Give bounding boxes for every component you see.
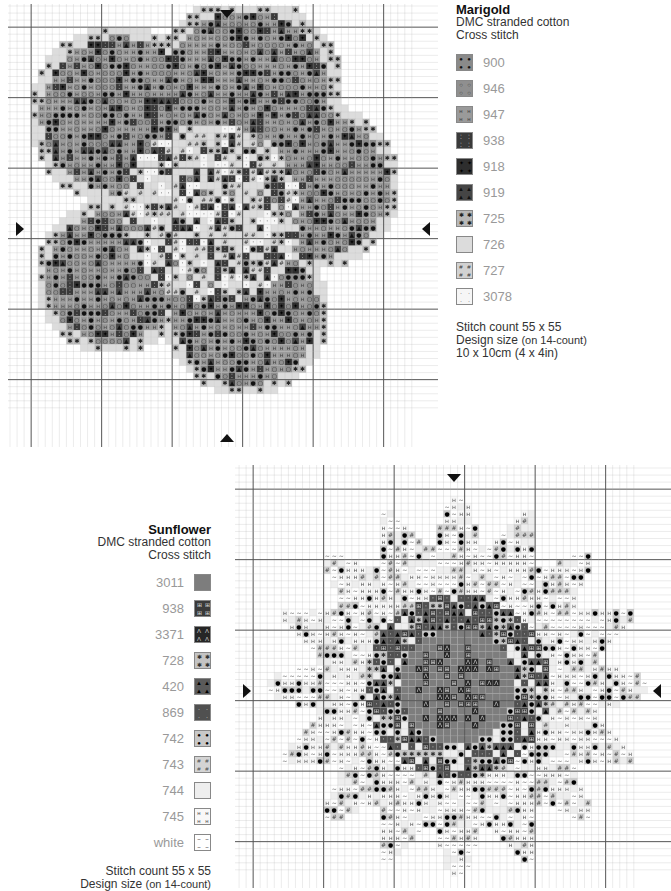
color-swatch-icon: ΛΛΛΛ <box>194 626 211 643</box>
center-marker-right-icon <box>422 222 430 236</box>
color-swatch-icon: #### <box>456 262 473 279</box>
legend-row: ○○○○946 <box>456 75 666 101</box>
legend-row: 742●●●● <box>20 725 211 751</box>
color-swatch-icon: ···· <box>456 288 473 305</box>
thread-code: 900 <box>483 56 505 69</box>
thread-code: 727 <box>483 264 505 277</box>
thread-code: 3371 <box>155 628 184 641</box>
thread-code: 742 <box>162 732 184 745</box>
sunflower-chart <box>235 465 671 888</box>
color-swatch-icon: ●●●● <box>456 54 473 71</box>
thread-code: 919 <box>483 186 505 199</box>
thread-code: 420 <box>162 680 184 693</box>
color-swatch-icon: ○○○○ <box>456 80 473 97</box>
legend-row: 745нннн <box>20 803 211 829</box>
design-size: Design size (on 14-count) <box>20 878 211 891</box>
color-swatch-icon: ⁚⁚⁚⁚ <box>456 132 473 149</box>
legend-row: ····3078 <box>456 283 666 309</box>
color-swatch-icon: ···· <box>194 704 211 721</box>
thread-code: 869 <box>162 706 184 719</box>
color-swatch-icon: ✱✱✱✱ <box>456 210 473 227</box>
thread-code: 3011 <box>156 576 184 589</box>
color-swatch-icon: ●●●● <box>194 730 211 747</box>
legend-row: ✱✱✱✱725 <box>456 205 666 231</box>
thread-code: 947 <box>483 108 505 121</box>
thread-code: 744 <box>162 784 184 797</box>
color-swatch-icon: нннн <box>194 808 211 825</box>
thread-code: 3078 <box>483 290 512 303</box>
thread-code: white <box>154 836 184 849</box>
color-swatch-icon: #### <box>194 756 211 773</box>
legend-row: 743#### <box>20 751 211 777</box>
marigold-color-list: ●●●●900○○○○946нннн947⁚⁚⁚⁚938✦✦✦✦918▲▲▲▲9… <box>456 49 666 309</box>
marigold-chart <box>8 4 438 447</box>
color-swatch-icon <box>456 236 473 253</box>
legend-row: ▲▲▲▲919 <box>456 179 666 205</box>
center-marker-top-icon <box>447 474 461 482</box>
thread-code: 946 <box>483 82 505 95</box>
thread-code: 728 <box>162 654 184 667</box>
legend-row: 869···· <box>20 699 211 725</box>
thread-code: 938 <box>483 134 505 147</box>
legend-row: ✦✦✦✦918 <box>456 153 666 179</box>
legend-row: 3011 <box>20 569 211 595</box>
legend-row: 726 <box>456 231 666 257</box>
center-marker-top-icon <box>220 10 234 18</box>
sunflower-notes: Stitch count 55 x 55 Design size (on 14-… <box>20 865 211 891</box>
stitch-type: Cross stitch <box>456 29 666 42</box>
thread-code: 745 <box>162 810 184 823</box>
legend-row: white~~~~ <box>20 829 211 855</box>
dimensions: 10 x 10cm (4 x 4in) <box>456 347 666 360</box>
legend-row: 744 <box>20 777 211 803</box>
legend-row: ####727 <box>456 257 666 283</box>
color-swatch-icon <box>194 574 211 591</box>
marigold-key: Marigold DMC stranded cotton Cross stitc… <box>456 3 666 360</box>
legend-row: нннн947 <box>456 101 666 127</box>
legend-row: ⁚⁚⁚⁚938 <box>456 127 666 153</box>
legend-row: 420▲▲▲▲ <box>20 673 211 699</box>
color-swatch-icon: ▲▲▲▲ <box>456 184 473 201</box>
color-swatch-icon: ✦✦✦✦ <box>456 158 473 175</box>
thread-code: 743 <box>162 758 184 771</box>
color-swatch-icon: ✱✱✱✱ <box>194 652 211 669</box>
sunflower-key: Sunflower DMC stranded cotton Cross stit… <box>20 523 211 891</box>
sunflower-color-list: 3011938⊞⊞⊞⊞3371ΛΛΛΛ728✱✱✱✱420▲▲▲▲869····… <box>20 569 211 855</box>
center-marker-right-icon <box>653 684 661 698</box>
legend-row: 3371ΛΛΛΛ <box>20 621 211 647</box>
center-marker-left-icon <box>243 684 251 698</box>
thread-code: 726 <box>483 238 505 251</box>
color-swatch-icon <box>194 782 211 799</box>
color-swatch-icon: ▲▲▲▲ <box>194 678 211 695</box>
legend-row: ●●●●900 <box>456 49 666 75</box>
thread-code: 725 <box>483 212 505 225</box>
thread-code: 918 <box>483 160 505 173</box>
sunflower-stitch-grid <box>235 465 671 888</box>
color-swatch-icon: нннн <box>456 106 473 123</box>
legend-row: 728✱✱✱✱ <box>20 647 211 673</box>
legend-row: 938⊞⊞⊞⊞ <box>20 595 211 621</box>
thread-code: 938 <box>162 602 184 615</box>
marigold-stitch-grid <box>8 4 438 447</box>
color-swatch-icon: ⊞⊞⊞⊞ <box>194 600 211 617</box>
center-marker-bottom-icon <box>220 434 234 442</box>
center-marker-left-icon <box>16 222 24 236</box>
stitch-type: Cross stitch <box>20 549 211 562</box>
marigold-notes: Stitch count 55 x 55 Design size (on 14-… <box>456 321 666 360</box>
color-swatch-icon: ~~~~ <box>194 834 211 851</box>
